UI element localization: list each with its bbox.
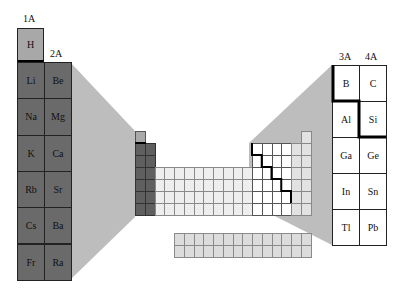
mini-metalloid-staircase [0, 0, 406, 291]
